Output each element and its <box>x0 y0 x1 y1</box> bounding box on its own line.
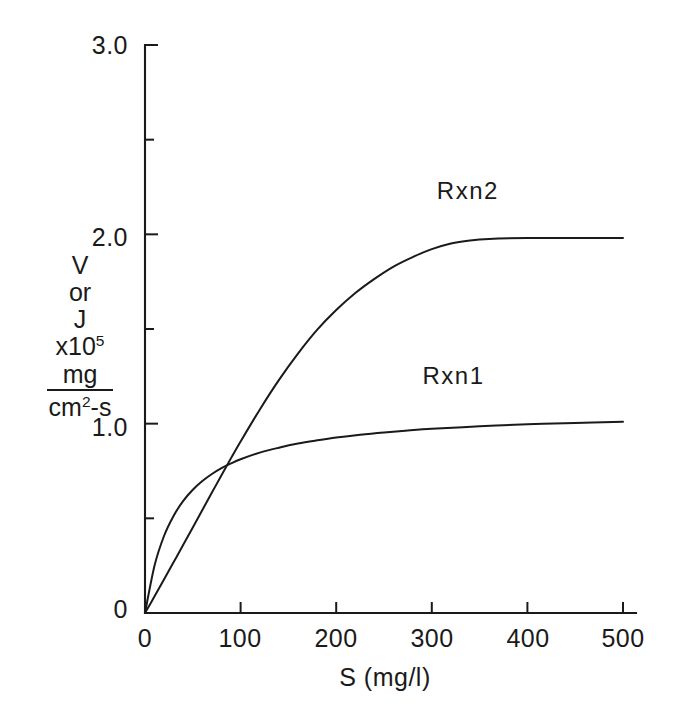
y-axis-title-line-power: x105 <box>28 333 132 360</box>
y-axis-title-line-j: J <box>28 306 132 333</box>
y-axis-title: V or J x105 mg cm2-s <box>28 252 132 422</box>
chart-figure: 3.0 2.0 1.0 0 0 100 200 300 400 500 S (m… <box>0 0 675 712</box>
x-tick-label-400: 400 <box>506 624 549 653</box>
x-tick-label-200: 200 <box>314 624 357 653</box>
curve-label-rxn1: Rxn1 <box>422 362 484 390</box>
y-axis-title-x10: x10 <box>56 332 96 360</box>
units-den-suffix: -s <box>91 394 112 422</box>
x-tick-label-500: 500 <box>601 624 644 653</box>
y-axis-ticks <box>145 45 158 518</box>
units-den-exponent: 2 <box>82 393 91 410</box>
y-axis-title-line-or: or <box>28 279 132 306</box>
units-fraction: mg cm2-s <box>47 361 114 421</box>
fraction-bar <box>47 389 114 391</box>
y-axis-title-exponent: 5 <box>96 332 105 349</box>
curve-rxn1 <box>145 422 623 613</box>
x-tick-label-100: 100 <box>218 624 261 653</box>
y-tick-label-3: 3.0 <box>76 31 128 60</box>
x-tick-label-0: 0 <box>138 624 152 653</box>
y-tick-label-0: 0 <box>76 595 128 624</box>
x-tick-label-300: 300 <box>410 624 453 653</box>
y-axis-title-line-v: V <box>28 252 132 279</box>
y-tick-label-2: 2.0 <box>76 223 128 252</box>
units-denominator: cm2-s <box>47 393 114 421</box>
units-numerator: mg <box>47 361 114 389</box>
x-axis-ticks <box>241 602 623 613</box>
x-axis-title: S (mg/l) <box>339 663 431 692</box>
units-den-cm: cm <box>49 394 82 422</box>
curve-rxn2 <box>145 238 623 613</box>
curve-label-rxn2: Rxn2 <box>437 177 499 205</box>
y-axis-title-fraction: mg cm2-s <box>28 360 132 421</box>
